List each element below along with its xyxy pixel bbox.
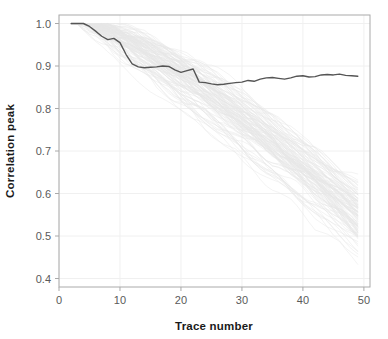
y-axis-title: Correlation peak [4,104,16,198]
y-axis-tick-label: 0.7 [36,145,51,157]
x-axis-title: Trace number [175,320,253,332]
chart-figure: 01020304050 0.40.50.60.70.80.91.0 Trace … [0,0,388,339]
y-axis-tick-label: 0.4 [36,273,51,285]
y-axis-tick-label: 0.5 [36,230,51,242]
x-axis-tick-label: 0 [56,294,62,306]
y-axis-tick-label: 0.9 [36,60,51,72]
correlation-peak-chart: 01020304050 0.40.50.60.70.80.91.0 Trace … [0,0,388,339]
x-axis-tick-label: 40 [297,294,309,306]
y-axis-tick-label: 1.0 [36,18,51,30]
x-axis-tick-label: 50 [358,294,370,306]
x-axis-tick-label: 20 [175,294,187,306]
x-axis-tick-label: 30 [236,294,248,306]
x-axis-tick-label: 10 [114,294,126,306]
y-axis-tick-label: 0.6 [36,188,51,200]
y-axis-tick-label: 0.8 [36,103,51,115]
